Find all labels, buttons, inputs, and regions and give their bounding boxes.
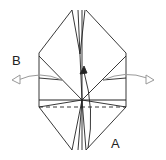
label-a: A	[111, 137, 120, 150]
center-vertical-flaps	[72, 10, 86, 150]
label-b: B	[12, 54, 21, 67]
origami-diagram	[0, 0, 166, 160]
